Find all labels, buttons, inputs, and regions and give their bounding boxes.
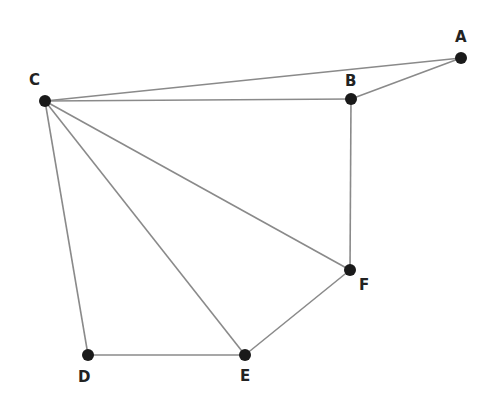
node-b: [345, 93, 357, 105]
node-label-e: E: [240, 367, 250, 385]
nodes-group: [39, 52, 467, 361]
edge-e-f: [245, 270, 350, 355]
node-label-f: F: [359, 276, 369, 294]
edge-c-e: [45, 101, 245, 355]
graph-diagram: ABCDEF: [0, 0, 495, 402]
edge-c-a: [45, 58, 461, 101]
node-label-a: A: [455, 28, 467, 46]
edges-group: [45, 58, 461, 355]
node-d: [82, 349, 94, 361]
node-f: [344, 264, 356, 276]
node-label-d: D: [78, 368, 90, 386]
edge-c-d: [45, 101, 88, 355]
edge-c-f: [45, 101, 350, 270]
edge-c-b: [45, 99, 351, 101]
node-e: [239, 349, 251, 361]
node-a: [455, 52, 467, 64]
node-label-b: B: [345, 72, 356, 90]
labels-group: ABCDEF: [29, 28, 467, 386]
node-c: [39, 95, 51, 107]
node-label-c: C: [29, 71, 40, 89]
edge-b-f: [350, 99, 351, 270]
